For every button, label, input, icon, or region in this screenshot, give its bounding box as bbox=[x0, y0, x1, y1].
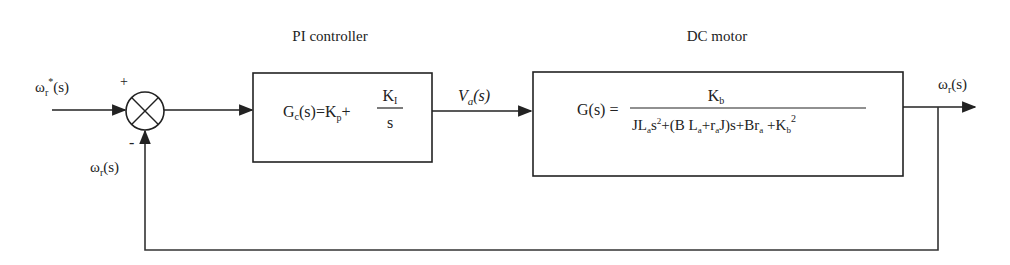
summing-junction bbox=[126, 92, 164, 130]
reference-signal-label: ωr*(s) bbox=[35, 76, 69, 98]
svg-text:ωr(s): ωr(s) bbox=[938, 76, 967, 95]
dc-motor-title: DC motor bbox=[687, 28, 747, 44]
svg-text:ωr(s): ωr(s) bbox=[90, 159, 119, 178]
svg-text:JLas2+(B La+raJ)s+Bra +Kb2: JLas2+(B La+raJ)s+Bra +Kb2 bbox=[632, 113, 796, 135]
pi-controller-title: PI controller bbox=[292, 28, 367, 44]
block-diagram: PI controller DC motor ωr*(s) + - ωr(s) … bbox=[0, 0, 1010, 265]
svg-text:s: s bbox=[387, 114, 393, 131]
control-signal-label: Va(s) bbox=[458, 87, 490, 107]
svg-text:G(s) =: G(s) = bbox=[577, 101, 618, 119]
svg-text:ωr*(s): ωr*(s) bbox=[35, 76, 69, 98]
plus-sign: + bbox=[120, 74, 128, 89]
output-signal-label: ωr(s) bbox=[938, 76, 967, 95]
feedback-signal-label: ωr(s) bbox=[90, 159, 119, 178]
minus-sign: - bbox=[129, 134, 134, 151]
svg-text:Va(s): Va(s) bbox=[458, 87, 490, 107]
